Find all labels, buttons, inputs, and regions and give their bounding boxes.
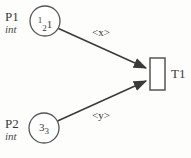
transition-t1-name: T1 [171, 67, 185, 80]
petri-net-diagram: P1 int 121 P2 int 33 <x> <y> T1 [0, 0, 191, 158]
place-p2-type: int [5, 131, 17, 142]
place-p1-marking: 121 [31, 15, 59, 34]
arc-p2-t1-label: <y> [92, 110, 110, 121]
place-p2-name: P2 [5, 117, 19, 130]
place-p1-type: int [5, 24, 17, 35]
diagram-graphics-layer [0, 0, 191, 158]
place-p1-name: P1 [5, 10, 19, 23]
arc-p1-t1-label: <x> [92, 27, 110, 38]
place-p2-marking: 33 [30, 122, 58, 137]
transition-t1-rect[interactable] [150, 58, 165, 90]
place-p2-marking-sub: 3 [45, 126, 50, 136]
place-p1-marking-tail: 1 [47, 18, 53, 30]
